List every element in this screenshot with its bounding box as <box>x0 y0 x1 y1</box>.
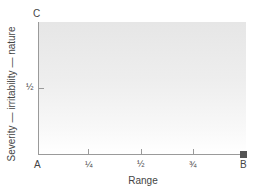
x-axis-line <box>38 154 242 155</box>
corner-label-c: C <box>33 9 40 19</box>
x-tick-quarter <box>88 149 89 155</box>
x-tick-label-half: ½ <box>137 160 145 169</box>
x-tick-three-quarter <box>193 149 194 155</box>
corner-label-b: B <box>240 160 247 170</box>
x-axis-title: Range <box>128 175 157 186</box>
corner-label-a: A <box>34 160 41 170</box>
shaded-region <box>38 22 246 154</box>
x-tick-label-three-quarter: ¾ <box>189 160 197 169</box>
endpoint-b-marker <box>240 151 247 158</box>
y-tick-half <box>38 88 44 89</box>
y-axis-title: Severity — irritability — nature <box>6 26 17 161</box>
x-tick-half <box>141 149 142 155</box>
x-tick-label-quarter: ¼ <box>85 160 93 169</box>
y-tick-label-half: ½ <box>26 83 34 92</box>
